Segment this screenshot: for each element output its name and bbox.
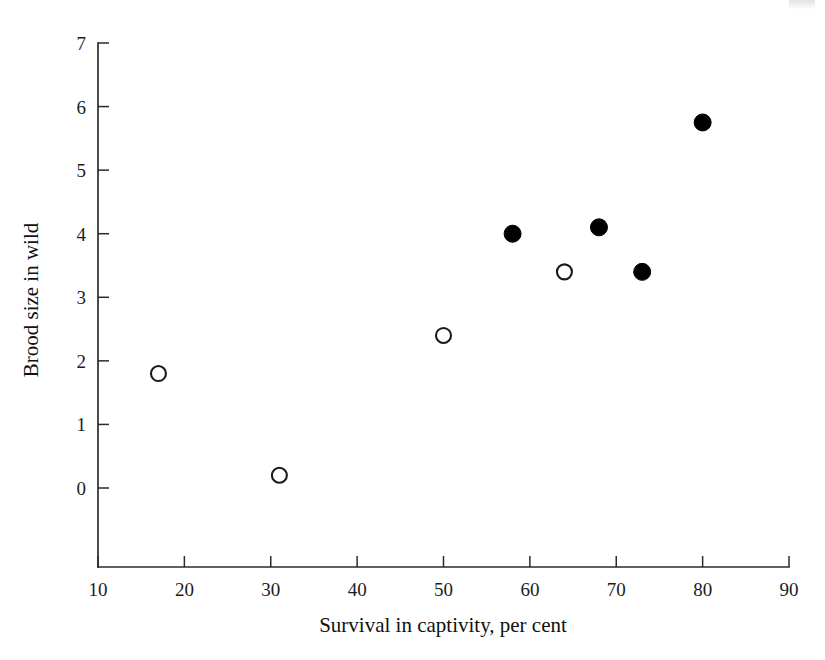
x-tick-label: 90 xyxy=(780,579,799,600)
y-axis-tick-labels: 01234567 xyxy=(77,33,87,499)
x-tick-label: 10 xyxy=(89,579,108,600)
data-point-filled xyxy=(590,219,607,236)
x-tick-label: 20 xyxy=(175,579,194,600)
x-tick-label: 60 xyxy=(520,579,539,600)
x-tick-label: 40 xyxy=(348,579,367,600)
x-tick-label: 70 xyxy=(607,579,626,600)
y-tick-label: 2 xyxy=(77,351,87,372)
y-tick-label: 1 xyxy=(77,414,87,435)
x-tick-label: 30 xyxy=(261,579,280,600)
y-tick-label: 7 xyxy=(77,33,87,54)
y-tick-label: 3 xyxy=(77,287,87,308)
x-axis-ticks xyxy=(98,556,789,567)
data-point-filled xyxy=(634,263,651,280)
plot-canvas: 01234567 102030405060708090 Survival in … xyxy=(0,0,825,660)
y-tick-label: 4 xyxy=(77,224,87,245)
data-point-layer xyxy=(151,114,711,483)
y-tick-label: 5 xyxy=(77,160,87,181)
x-axis-title: Survival in captivity, per cent xyxy=(319,613,567,637)
x-tick-label: 50 xyxy=(434,579,453,600)
y-axis-title: Brood size in wild xyxy=(19,222,43,377)
y-tick-label: 6 xyxy=(77,97,87,118)
x-axis-tick-labels: 102030405060708090 xyxy=(89,579,799,600)
x-tick-label: 80 xyxy=(693,579,712,600)
data-point-open xyxy=(557,264,572,279)
data-point-filled xyxy=(694,114,711,131)
y-axis-ticks xyxy=(98,43,109,488)
scatter-plot-figure: 01234567 102030405060708090 Survival in … xyxy=(0,0,825,660)
scan-artifact xyxy=(789,0,815,9)
data-point-open xyxy=(436,328,451,343)
data-point-filled xyxy=(504,225,521,242)
y-tick-label: 0 xyxy=(77,478,87,499)
data-point-open xyxy=(272,468,287,483)
data-point-open xyxy=(151,366,166,381)
